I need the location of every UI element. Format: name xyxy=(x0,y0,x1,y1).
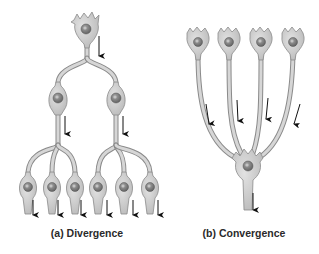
convergence-postsynaptic-neuron xyxy=(232,149,263,210)
divergence-bottom-neuron-1 xyxy=(19,172,36,214)
divergence-bottom-neuron-5 xyxy=(115,172,132,214)
convergence-presynaptic-neuron-1 xyxy=(187,27,209,60)
convergence-presynaptic-neurons xyxy=(187,27,304,60)
divergence-bottom-neuron-4 xyxy=(89,172,106,214)
arrow-down-icon xyxy=(294,104,300,124)
divergence-bottom-neuron-6 xyxy=(141,172,158,214)
convergence-panel xyxy=(187,27,304,210)
divergence-axons-level1 xyxy=(58,45,116,82)
convergence-presynaptic-neuron-2 xyxy=(218,27,240,60)
arrow-down-icon xyxy=(266,98,268,119)
divergence-middle-neuron-left xyxy=(49,82,67,115)
divergence-middle-neuron-right xyxy=(107,82,125,115)
convergence-presynaptic-neuron-4 xyxy=(282,27,304,60)
arrow-down-icon xyxy=(237,100,238,121)
divergence-presynaptic-neuron xyxy=(71,12,99,48)
divergence-panel xyxy=(19,12,158,215)
neural-circuits-diagram xyxy=(0,0,319,254)
divergence-caption: (a) Divergence xyxy=(51,227,123,239)
divergence-axons-level2 xyxy=(28,115,150,172)
convergence-presynaptic-neuron-3 xyxy=(250,27,272,60)
divergence-bottom-neurons xyxy=(19,172,158,214)
convergence-caption: (b) Convergence xyxy=(203,227,286,239)
convergence-axons xyxy=(198,55,293,157)
